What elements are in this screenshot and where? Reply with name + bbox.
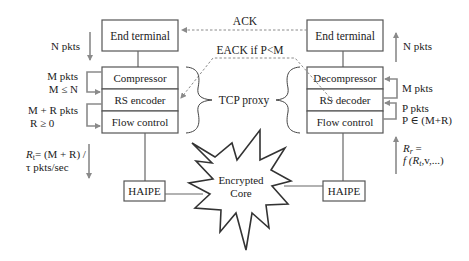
eack-label: EACK if P<M — [216, 44, 283, 56]
flow-loop-arrow — [383, 103, 396, 119]
m-pkts-label: M pkts — [47, 70, 78, 82]
right-n-pkts-label: N pkts — [403, 40, 432, 52]
right-flow-control-label: Flow control — [317, 116, 374, 128]
left-node: End terminal Compressor RS encoder Flow … — [25, 20, 203, 201]
right-end-terminal-label: End terminal — [315, 30, 375, 42]
ack-label: ACK — [233, 15, 258, 27]
right-haipe-label: HAIPE — [328, 185, 361, 197]
encoder-loop-arrow — [87, 104, 102, 126]
mr-pkts-label: M + R pkts — [28, 104, 78, 116]
core-label-line1: Encrypted — [218, 174, 264, 186]
left-n-pkts-label: N pkts — [51, 40, 80, 52]
rs-decoder-label: RS decoder — [319, 94, 370, 106]
p-pkts-label: P pkts — [402, 102, 429, 114]
left-rate-units: τ pkts/sec — [26, 161, 69, 173]
decoder-loop-arrow — [383, 79, 397, 98]
right-node: End terminal Decompressor RS decoder Flo… — [284, 20, 452, 201]
left-end-terminal-label: End terminal — [110, 30, 170, 42]
p-cond-label: P ∈ (M+R) — [402, 114, 452, 127]
decompressor-label: Decompressor — [313, 72, 377, 84]
compressor-label: Compressor — [113, 72, 167, 84]
left-flow-control-label: Flow control — [112, 116, 169, 128]
right-rate-formula: f (Rt,v,...) — [403, 154, 444, 168]
core-label-line2: Core — [230, 187, 252, 199]
compressor-loop-arrow — [87, 72, 102, 92]
left-haipe-label: HAIPE — [128, 185, 161, 197]
tcp-proxy-label: TCP proxy — [219, 94, 270, 107]
r-cond-label: R ≥ 0 — [30, 117, 55, 129]
right-brace — [276, 67, 300, 133]
tcp-proxy-diagram: End terminal Compressor RS encoder Flow … — [0, 0, 469, 261]
left-rate-formula: Rt= (M + R) / — [25, 148, 87, 162]
m-cond-label: M ≤ N — [49, 83, 78, 95]
rs-encoder-label: RS encoder — [114, 94, 165, 106]
left-brace — [186, 67, 212, 133]
right-m-pkts-label: M pkts — [402, 82, 433, 94]
